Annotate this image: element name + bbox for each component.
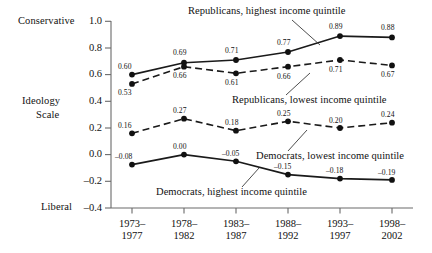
data-label-dem-high-5: –0.19: [378, 169, 395, 177]
chart-plot-area: [0, 0, 432, 253]
leader-line-republicans-highest: [292, 20, 320, 45]
data-label-rep-low-2: 0.61: [225, 79, 239, 87]
x-tick-label-1-line2: 1977: [110, 230, 154, 242]
data-label-dem-low-3: 0.25: [277, 110, 291, 118]
y-tick-label-6: 0.0: [79, 149, 102, 160]
x-tick-label-6: 1998– 2002: [370, 218, 414, 241]
x-tick-label-2: 1978– 1982: [162, 218, 206, 241]
x-tick-label-4-line1: 1988–: [266, 218, 310, 230]
y-tick-label-1: 1.0: [79, 16, 102, 27]
y-tick-label-5: 0.2: [79, 123, 102, 134]
x-tick-label-3: 1983– 1987: [214, 218, 258, 241]
x-tick-label-3-line1: 1983–: [214, 218, 258, 230]
data-label-rep-high-2: 0.71: [225, 47, 239, 55]
y-tick-label-3: 0.6: [79, 69, 102, 80]
data-label-dem-low-5: 0.24: [381, 111, 395, 119]
y-axis-ticks: [105, 21, 111, 208]
y-tick-label-7: –0.2: [75, 176, 102, 187]
y-tick-label-2: 0.8: [79, 43, 102, 54]
x-tick-label-4-line2: 1992: [266, 230, 310, 242]
series-democrats-lowest: [129, 116, 395, 136]
x-tick-label-5-line2: 1997: [318, 230, 362, 242]
y-tick-label-8: –0.4: [75, 203, 102, 214]
data-label-rep-high-1: 0.69: [173, 49, 187, 57]
annotation-democrats-highest: Democrats, highest income quintile: [156, 187, 307, 198]
leader-line-democrats-highest: [242, 168, 259, 187]
data-label-rep-low-5: 0.67: [381, 71, 395, 79]
x-axis-ticks: [132, 208, 392, 214]
y-tick-label-4: 0.4: [79, 96, 102, 107]
leader-line-democrats-lowest: [288, 130, 307, 151]
chart-figure: Conservative Ideology Scale Liberal 1.0 …: [0, 0, 432, 253]
x-tick-label-3-line2: 1987: [214, 230, 258, 242]
x-tick-label-1: 1973– 1977: [110, 218, 154, 241]
x-tick-label-5-line1: 1993–: [318, 218, 362, 230]
data-label-rep-high-3: 0.77: [277, 39, 291, 47]
data-label-dem-high-4: –0.18: [326, 167, 343, 175]
y-axis-bottom-label: Liberal: [41, 202, 72, 213]
data-label-rep-high-5: 0.88: [381, 24, 395, 32]
data-label-dem-high-3: –0.15: [274, 163, 291, 171]
data-label-dem-low-2: 0.18: [225, 119, 239, 127]
y-axis-title-line2: Scale: [36, 110, 59, 121]
data-label-dem-high-0: –0.08: [115, 153, 132, 161]
series-republicans-lowest: [129, 57, 395, 87]
data-label-rep-low-1: 0.66: [173, 72, 187, 80]
data-label-rep-low-0: 0.53: [118, 89, 132, 97]
annotation-democrats-lowest: Democrats, lowest income quintile: [256, 151, 404, 162]
data-label-rep-low-4: 0.71: [329, 66, 343, 74]
data-label-rep-high-0: 0.60: [118, 63, 132, 71]
data-label-dem-low-0: 0.16: [118, 122, 132, 130]
data-label-rep-low-3: 0.66: [277, 73, 291, 81]
x-tick-label-5: 1993– 1997: [318, 218, 362, 241]
data-label-dem-high-1: 0.00: [173, 143, 187, 151]
x-tick-label-2-line1: 1978–: [162, 218, 206, 230]
data-label-dem-low-4: 0.20: [329, 117, 343, 125]
data-label-dem-high-2: –0.05: [222, 150, 239, 158]
x-tick-label-1-line1: 1973–: [110, 218, 154, 230]
annotation-republicans-lowest: Republicans, lowest income quintile: [232, 95, 387, 106]
x-tick-label-6-line2: 2002: [370, 230, 414, 242]
y-axis-title-line1: Ideology: [22, 96, 60, 107]
y-axis-top-label: Conservative: [18, 16, 75, 27]
x-tick-label-2-line2: 1982: [162, 230, 206, 242]
x-tick-label-4: 1988– 1992: [266, 218, 310, 241]
annotation-republicans-highest: Republicans, highest income quintile: [188, 6, 346, 17]
data-label-rep-high-4: 0.89: [329, 23, 343, 31]
data-label-dem-low-1: 0.27: [173, 107, 187, 115]
x-tick-label-6-line1: 1998–: [370, 218, 414, 230]
